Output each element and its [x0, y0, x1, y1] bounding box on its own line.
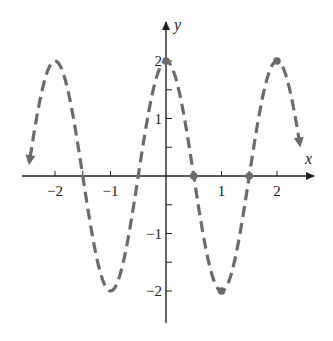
x-tick-label: −2 [47, 183, 63, 199]
x-tick-label: 2 [273, 183, 281, 199]
left-arrow-icon [25, 155, 35, 166]
x-axis-label: x [304, 150, 312, 167]
x-tick-label: 1 [218, 183, 226, 199]
y-tick-label: −1 [146, 226, 162, 242]
y-axis-label: y [172, 16, 182, 34]
data-point [162, 57, 170, 65]
chart: −2−11221−1−2xy [0, 0, 333, 341]
data-point [273, 57, 281, 65]
data-point [190, 172, 198, 180]
axes [22, 22, 314, 323]
right-arrow-icon [294, 137, 304, 148]
data-point [218, 287, 226, 295]
y-tick-label: −2 [146, 283, 162, 299]
tick-labels: −2−11221−1−2xy [47, 16, 312, 299]
data-point [245, 172, 253, 180]
x-tick-label: −1 [103, 183, 119, 199]
y-tick-label: 1 [155, 111, 163, 127]
y-tick-label: 2 [155, 53, 163, 69]
